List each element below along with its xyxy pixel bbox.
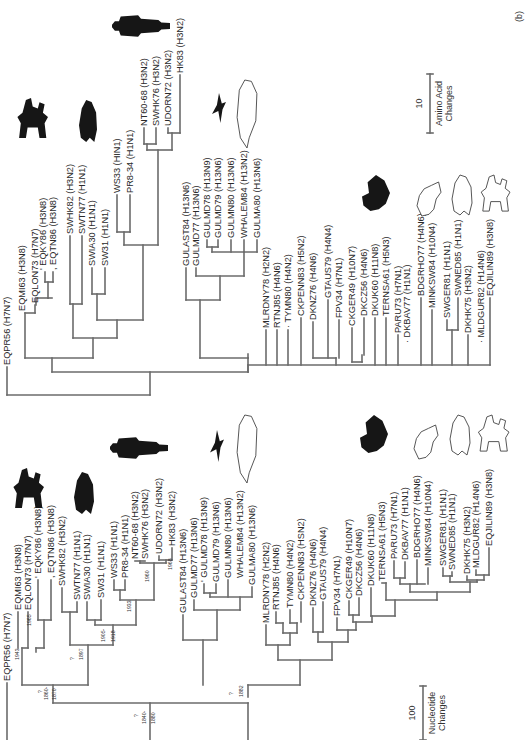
divergence-dates: 19431965?1860-1870?18971905-191819331960… xyxy=(14,558,244,724)
leaf-label: RTNJ85 (H4N6) xyxy=(272,262,282,328)
leaf-label: GULMD77 (H13N6) xyxy=(189,517,199,598)
divergence-date: ? xyxy=(69,657,75,660)
phylogenetic-figure: EQPR56 (H7N7)EQMI63 (H3N8)EQLON73 (H7N7)… xyxy=(0,0,525,740)
leaf-label: GULMA80 (H13N6) xyxy=(247,505,257,585)
divergence-date: 1960 xyxy=(144,570,150,582)
leaf-label: SWHK76 (H3N2) xyxy=(151,56,161,126)
leaf-label: GTAUS79 (H4N4) xyxy=(323,225,333,298)
leaf-label: MINKSW84 (H10N4) xyxy=(423,481,433,566)
leaf-label: SWNED85 (H1N1) xyxy=(447,493,457,570)
divergence-date: 1840- xyxy=(141,710,147,724)
leaf-label: WHALEM84 (H13N2) xyxy=(235,490,245,578)
leaf-label: · DKBAV77 (H1N1) xyxy=(402,265,412,343)
divergence-date: ? xyxy=(228,692,234,695)
horse-outline-icon xyxy=(478,415,509,451)
leaf-label: SWIA30 (H1N1) xyxy=(87,200,97,266)
leaf-label: PR8-34 (H1N1) xyxy=(125,130,135,193)
leaf-label: ' EQKY86 (H3N8) xyxy=(33,506,43,578)
pig-icon xyxy=(79,100,97,142)
leaf-label: DKBAV77 (H1N1) xyxy=(400,487,410,560)
divergence-date: ? xyxy=(133,714,139,717)
leaf-label: GULAST84 (H13N6) xyxy=(181,182,191,266)
bird-icon xyxy=(212,93,226,123)
leaf-label: UDORN72 (H3N2) xyxy=(154,478,164,554)
divergence-date: 1918 xyxy=(110,630,116,642)
leaf-label: DKNZ76 (H4N6) xyxy=(308,539,318,606)
duck-icon xyxy=(362,175,390,211)
leaf-label: WS33 (HIN1) xyxy=(112,138,122,193)
leaf-label: , EQTN86 (H3N8) xyxy=(48,197,58,270)
leaf-label: MINKSW84 (H10N4) xyxy=(427,223,437,308)
leaf-label: BDGRHO77 (H4N6) xyxy=(416,213,426,296)
leaf-label: EQLON73 (H7N7) xyxy=(23,535,33,610)
leaf-label: EQPR56 (H7N7) xyxy=(2,297,12,365)
divergence-date: 1943 xyxy=(14,648,20,660)
leaf-label: HK83 (H3N2) xyxy=(167,491,177,546)
divergence-date: 1860- xyxy=(43,686,49,700)
leaf-label: CKPENN83 (HSN2) xyxy=(296,518,306,600)
leaf-label: DKCZ56 (H4N6) xyxy=(359,249,369,316)
leaf-label: TERNSA61 (H5N3) xyxy=(381,236,391,316)
scale-bar-label: Amino Acid xyxy=(434,81,444,126)
nucleotide-tree: EQPR56 (H7N7)EQMI63 (H3N8)EQLON73 (H7N7)… xyxy=(2,415,509,740)
leaf-label: EQMI63 (H3N8) xyxy=(17,245,27,311)
figure-canvas: EQPR56 (H7N7)EQMI63 (H3N8)EQLON73 (H7N7)… xyxy=(0,0,525,740)
pig-outline-icon xyxy=(450,415,470,455)
leaf-label: DKCZ56 (H4N6) xyxy=(354,529,364,596)
leaf-label: SWHK76 (H3N2) xyxy=(140,489,150,559)
scale-bar-label: Changes xyxy=(437,694,447,731)
leaf-label: EQJILIN89 (H3N8) xyxy=(484,469,494,546)
scale-bar-amino-acid: 10 Amino Acid Changes xyxy=(414,74,454,133)
human-icon xyxy=(112,15,170,37)
leaf-label: GULMN80 (H13N6) xyxy=(223,497,233,578)
leaf-label: SWTN77 (H1N1) xyxy=(72,531,82,600)
horse-icon xyxy=(17,98,48,138)
leaf-label: NT60-68 (H3N2) xyxy=(130,491,140,559)
bird-icon xyxy=(210,430,224,462)
human-icon xyxy=(110,437,168,459)
leaf-label: PARU73 (H7N1) xyxy=(389,492,399,559)
leaf-label: SWGER81 (H1N1) xyxy=(442,241,452,318)
pig-outline-icon xyxy=(452,175,472,215)
leaf-label: CKGER49 (H10N7) xyxy=(344,519,354,599)
leaf-label: SWHK82 (H3N2) xyxy=(57,516,67,586)
leaf-label: DKUK60 (H11N8) xyxy=(366,514,376,586)
leaf-label: SWTN77 (H1N1) xyxy=(77,165,87,234)
leaf-label: GULMN80 (H13N6) xyxy=(226,157,236,238)
host-silhouettes xyxy=(13,415,509,514)
scale-bar-label: Nucleotide xyxy=(427,692,437,735)
divergence-date: 1968 xyxy=(167,558,173,570)
leaf-label: CKPENN83 (H5N2) xyxy=(296,235,306,316)
whale-icon xyxy=(237,415,257,483)
leaf-label: MLRDNY78 (H2N2) xyxy=(261,542,271,623)
leaf-label: WHALEM84 (H13N2) xyxy=(239,150,249,238)
scale-bar-value: 100 xyxy=(407,705,417,720)
leaf-label: GULAST84 (H13N6) xyxy=(178,529,188,613)
leaf-label: EQPR56 (H7N7) xyxy=(2,613,12,681)
leaf-label: GULMD79 (H13N6) xyxy=(211,501,221,582)
leaf-label: TERNSA61 (H5N3) xyxy=(377,501,387,581)
leaf-label: ' GULMD78 (H13N9) xyxy=(199,497,209,582)
leaf-label: CKGER49 (H10N7) xyxy=(347,246,357,326)
leaf-label: ' EQKY86 (H3N8) xyxy=(38,198,48,270)
leaf-label: DKHK75 (H3N2) xyxy=(463,265,473,333)
leaf-label: SWIA30 (H1N1) xyxy=(82,534,92,600)
leaf-label: GULMD78 (H13N9) xyxy=(202,157,212,238)
leaf-label: WS33 (H1N1) xyxy=(109,521,119,578)
duck-icon xyxy=(360,415,388,453)
leaf-label: TYMN80 (H4N2) xyxy=(285,540,295,608)
divergence-date: 1933 xyxy=(126,600,132,612)
leaf-label: FPV34 (H7N1) xyxy=(334,258,344,318)
leaf-label: DKUK60 (H11N8) xyxy=(370,244,380,316)
scale-bar-nucleotide: 100 Nucleotide Changes xyxy=(407,686,447,740)
leaf-label: PR8-34 (H1N1) xyxy=(120,515,130,578)
leaf-label: SWHK82 (H3N2) xyxy=(65,164,75,234)
leaf-label: · TYMN80 (H4N2) xyxy=(283,254,293,328)
leaf-label: SW31 (H1N1) xyxy=(100,209,110,266)
leaf-label: RTNJ85 (H4N6) xyxy=(271,544,281,610)
divergence-date: 1870 xyxy=(51,688,57,700)
leaf-label: MLRDNY78 (H2N2) xyxy=(261,247,271,328)
mink-icon xyxy=(417,182,441,216)
leaf-label: BDGRHO77 (H4N6) xyxy=(412,475,422,558)
leaf-label: SW31 (H1N1) xyxy=(96,541,106,598)
